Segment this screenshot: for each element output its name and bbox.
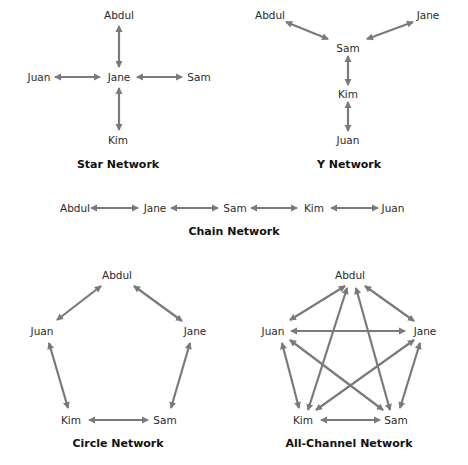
node-sam: Sam <box>223 202 246 214</box>
node-kim: Kim <box>61 414 81 426</box>
edge-abdul-sam <box>356 288 390 410</box>
node-jane: Jane <box>183 325 207 337</box>
node-kim: Kim <box>293 414 313 426</box>
star-network: Abdul Juan Jane Sam Kim Star Network <box>27 9 211 171</box>
edge-jane-kim <box>316 340 414 410</box>
node-kim: Kim <box>338 88 358 100</box>
node-juan: Juan <box>381 202 405 214</box>
node-kim: Kim <box>304 202 324 214</box>
edge-jane-sam <box>171 343 190 408</box>
edge-juan-kim <box>282 343 299 408</box>
y-network-title: Y Network <box>316 158 382 171</box>
node-juan: Juan <box>261 325 285 337</box>
edge-abdul-juan <box>290 286 345 320</box>
communication-networks-diagram: Abdul Juan Jane Sam Kim Star Network Abd… <box>0 0 468 465</box>
node-juan: Juan <box>27 71 51 83</box>
circle-network-title: Circle Network <box>72 437 164 450</box>
all-channel-network: Abdul Juan Jane Kim Sam All-Channel Netw… <box>261 269 437 450</box>
node-kim: Kim <box>108 134 128 146</box>
node-juan: Juan <box>336 134 360 146</box>
edge-jane-sam <box>400 343 420 408</box>
edge-sam-jane <box>367 22 413 39</box>
node-jane: Jane <box>143 202 167 214</box>
edge-juan-sam <box>290 340 383 410</box>
all-channel-network-title: All-Channel Network <box>285 437 413 450</box>
node-abdul: Abdul <box>104 9 134 21</box>
node-abdul: Abdul <box>255 9 285 21</box>
edge-abdul-juan <box>57 286 101 320</box>
node-abdul: Abdul <box>335 269 365 281</box>
node-abdul: Abdul <box>102 269 132 281</box>
node-sam: Sam <box>336 42 359 54</box>
node-jane: Jane <box>416 9 440 21</box>
edge-abdul-jane <box>365 286 414 321</box>
edge-sam-abdul <box>286 22 328 39</box>
node-sam: Sam <box>187 71 210 83</box>
y-network: Abdul Jane Sam Kim Juan Y Network <box>255 9 439 171</box>
circle-network: Abdul Juan Jane Kim Sam Circle Network <box>30 269 207 450</box>
node-sam: Sam <box>153 414 176 426</box>
node-abdul: Abdul <box>60 202 90 214</box>
chain-network: Abdul Jane Sam Kim Juan Chain Network <box>60 202 404 238</box>
node-jane: Jane <box>107 71 131 83</box>
star-network-title: Star Network <box>77 158 160 171</box>
edge-abdul-jane <box>134 286 182 321</box>
node-jane: Jane <box>413 325 437 337</box>
edge-juan-kim <box>49 343 68 408</box>
node-sam: Sam <box>384 414 407 426</box>
chain-network-title: Chain Network <box>188 225 280 238</box>
node-juan: Juan <box>30 325 54 337</box>
